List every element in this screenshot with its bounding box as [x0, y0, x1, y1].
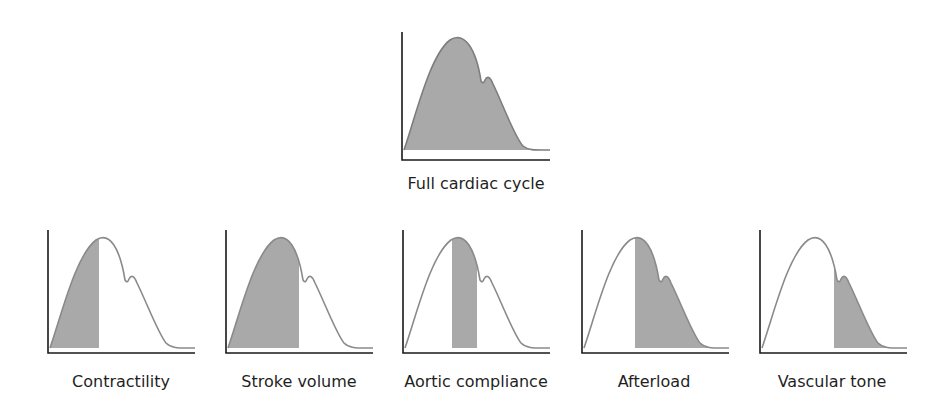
shaded-region — [50, 238, 195, 348]
chart-axes — [760, 230, 907, 353]
chart-contractility — [48, 230, 195, 353]
waveform-curve — [405, 238, 550, 348]
label-contractility: Contractility — [72, 372, 170, 391]
waveform-fill — [404, 38, 550, 150]
chart-vascular-tone — [760, 230, 907, 353]
shaded-region — [405, 238, 550, 348]
label-afterload: Afterload — [618, 372, 691, 391]
chart-afterload — [582, 230, 729, 353]
cardiac-waveform-diagram: Full cardiac cycle Contractility Stroke … — [0, 0, 949, 403]
chart-full-cardiac-cycle — [402, 32, 550, 160]
chart-stroke-volume — [226, 230, 373, 353]
chart-aortic-compliance — [403, 230, 550, 353]
shaded-region — [228, 238, 373, 348]
shaded-region — [584, 238, 729, 348]
label-aortic-compliance: Aortic compliance — [404, 372, 547, 391]
label-full-cardiac-cycle: Full cardiac cycle — [408, 174, 545, 193]
shaded-region — [762, 238, 907, 348]
label-stroke-volume: Stroke volume — [241, 372, 356, 391]
label-vascular-tone: Vascular tone — [778, 372, 887, 391]
